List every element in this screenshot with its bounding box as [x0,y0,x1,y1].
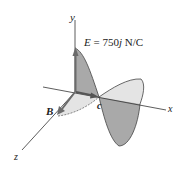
y-axis-label: y [70,12,75,23]
b-field-label: B [46,106,53,117]
c-speed-label: c [97,101,101,111]
diagram-svg [0,0,186,172]
x-axis-label: x [168,104,172,114]
e-field-label: E = 750j N/C [84,37,143,48]
e-equation: = 750 [91,36,119,48]
e-symbol: E [84,36,91,48]
e-units: N/C [122,36,143,48]
z-axis-label: z [14,152,18,162]
e-wave-lobe-1 [75,48,99,97]
z-axis [22,92,75,150]
em-wave-diagram: y x z E = 750j N/C B c [0,0,186,172]
